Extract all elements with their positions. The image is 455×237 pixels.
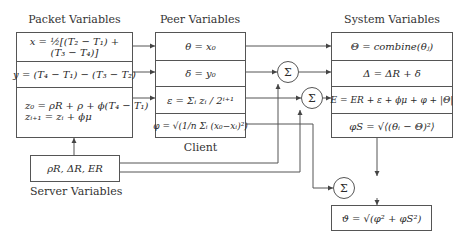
packet-y-text: y = (T₄ − T₁) − (T₃ − T₂) [13,69,136,80]
server-content: ρR, ΔR, ER [31,156,119,181]
system-theta-text: Θ = combine(θⱼ) [351,41,433,52]
peer-epsilon-text: ε = Σᵢ zᵢ / 2ⁱ⁺¹ [167,95,234,106]
system-row-delta: Δ = ΔR + δ [332,60,452,86]
system-e-text: E = ER + ε + ϕμ + φ + |Θ| [331,95,454,106]
system-row-theta: Θ = combine(θⱼ) [332,33,452,60]
peer-row-theta: θ = x₀ [156,33,245,60]
peer-row-phi: φ = √(1/n Σᵢ (x₀−xᵢ)²) [156,113,245,139]
sigma-icon: Σ [284,66,292,79]
packet-x-line1: x = ½[(T₂ − T₁) + [30,36,119,47]
sum-node-error: Σ [301,87,323,109]
peer-theta-text: θ = x₀ [185,41,215,52]
sum-node-delta: Σ [277,61,299,83]
system-row-phis: φS = √⟨(θᵢ − Θ)²⟩ [332,113,452,139]
packet-row-y: y = (T₄ − T₁) − (T₃ − T₂) [17,61,132,87]
packet-z0-text: z₀ = ρR + ρ + ϕ(T₄ − T₁) [25,100,149,111]
packet-variables-box: x = ½[(T₂ − T₁) + (T₃ − T₄)] y = (T₄ − T… [16,32,133,138]
system-variables-box: Θ = combine(θⱼ) Δ = ΔR + δ E = ER + ε + … [331,32,453,138]
packet-x-line2: (T₃ − T₄)] [51,47,99,58]
peer-phi-text: φ = √(1/n Σᵢ (x₀−xᵢ)²) [153,121,248,132]
peer-row-epsilon: ε = Σᵢ zᵢ / 2ⁱ⁺¹ [156,86,245,113]
packet-row-x: x = ½[(T₂ − T₁) + (T₃ − T₄)] [17,33,132,61]
packet-row-z: z₀ = ρR + ρ + ϕ(T₄ − T₁) zᵢ₊₁ = zᵢ + ϕμ [17,87,132,139]
result-content: ϑ = √(φ² + φS²) [332,206,431,230]
sigma-icon: Σ [308,92,316,105]
sigma-icon: Σ [340,182,348,195]
server-variables-title: Server Variables [30,185,120,198]
system-row-e: E = ER + ε + ϕμ + φ + |Θ| [332,86,452,113]
system-phis-text: φS = √⟨(θᵢ − Θ)²⟩ [349,121,435,132]
client-label: Client [155,141,246,154]
packet-zi-text: zᵢ₊₁ = zᵢ + ϕμ [25,111,92,122]
peer-row-delta: δ = y₀ [156,60,245,86]
result-text: ϑ = √(φ² + φS²) [342,213,422,224]
server-values-text: ρR, ΔR, ER [47,163,103,174]
peer-variables-box: θ = x₀ δ = y₀ ε = Σᵢ zᵢ / 2ⁱ⁺¹ φ = √(1/n… [155,32,246,138]
system-delta-text: Δ = ΔR + δ [363,68,420,79]
result-box: ϑ = √(φ² + φS²) [331,205,432,231]
peer-delta-text: δ = y₀ [185,68,215,79]
server-variables-box: ρR, ΔR, ER [30,155,120,182]
sum-node-theta: Σ [333,177,355,199]
